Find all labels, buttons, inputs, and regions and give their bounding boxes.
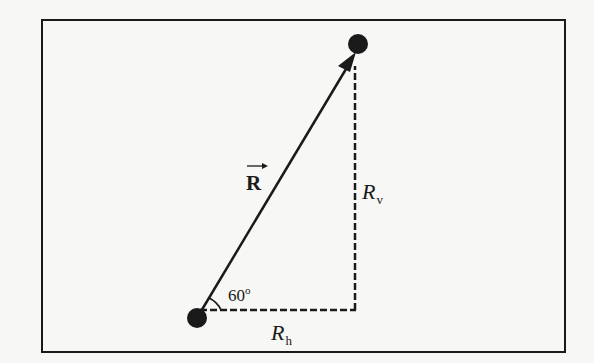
- resultant-vector-line: [197, 64, 349, 318]
- horizontal-component-subscript: h: [285, 333, 292, 348]
- vertical-component-subscript: v: [376, 192, 383, 207]
- horizontal-component-label: Rh: [270, 320, 292, 348]
- vector-diagram: R Rv Rh 60o: [0, 0, 594, 363]
- end-point-dot: [348, 34, 368, 54]
- arrowhead-icon: [338, 52, 356, 72]
- diagram-svg: R Rv Rh 60o: [0, 0, 594, 363]
- angle-value: 60: [228, 286, 245, 305]
- angle-label: 60o: [228, 284, 251, 305]
- vector-label: R: [246, 171, 262, 195]
- vertical-component-label: Rv: [361, 179, 383, 207]
- frame-border: [42, 20, 565, 352]
- vector-arrow-tip-icon: [262, 163, 268, 169]
- angle-arc: [209, 298, 221, 310]
- vertical-component-base: R: [361, 179, 376, 204]
- angle-unit: o: [245, 284, 251, 296]
- horizontal-component-base: R: [270, 320, 285, 345]
- start-point-dot: [187, 308, 207, 328]
